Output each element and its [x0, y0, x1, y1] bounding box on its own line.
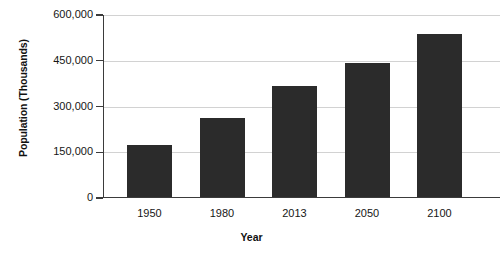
x-axis-line [103, 197, 500, 198]
y-axis-tick-label: 300,000 [53, 100, 93, 112]
y-axis-line [103, 15, 104, 198]
bar-chart: Population (Thousands) 0150,000300,00045… [0, 0, 503, 254]
plot-area [103, 15, 500, 198]
y-axis-tick [96, 106, 103, 107]
y-axis-tick [96, 152, 103, 153]
y-axis-tick-label: 450,000 [53, 54, 93, 66]
y-axis-tick [96, 60, 103, 61]
y-axis-tick [96, 197, 103, 198]
gridline [103, 15, 500, 16]
y-axis-tick-label: 0 [87, 191, 93, 203]
bar [345, 63, 390, 197]
x-axis-tick-label: 2100 [397, 207, 482, 219]
y-axis-tick-label: 150,000 [53, 145, 93, 157]
bar [417, 34, 462, 197]
bar [272, 86, 317, 197]
y-axis-tick-label: 600,000 [53, 8, 93, 20]
x-axis-title: Year [0, 231, 503, 243]
y-axis-tick-labels: 0150,000300,000450,000600,000 [0, 15, 93, 198]
bar [127, 145, 172, 197]
bar [200, 118, 245, 197]
y-axis-tick [96, 14, 103, 15]
